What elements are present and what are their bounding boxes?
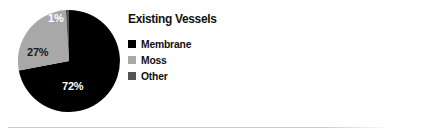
pie-label-membrane: 72% (62, 81, 83, 92)
pie-label-other: 1% (48, 13, 64, 24)
legend-swatch-membrane-icon (128, 40, 136, 48)
legend-item-membrane[interactable]: Membrane (128, 36, 214, 52)
legend-label-moss: Moss (141, 55, 167, 66)
legend-item-moss[interactable]: Moss (128, 52, 214, 68)
legend-existing-vessels: Existing Vessels Membrane Moss Other (128, 11, 214, 84)
legend-label-membrane: Membrane (141, 39, 191, 50)
legend-label-other: Other (141, 71, 168, 82)
chart-panel-existing-vessels: 72% 27% 1% Existing Vessels Membrane Mos… (0, 0, 218, 134)
legend-list-existing-vessels: Membrane Moss Other (128, 36, 214, 84)
pie-label-moss: 27% (27, 47, 48, 58)
chart-title-existing-vessels: Existing Vessels (128, 11, 207, 26)
pie-svg-existing-vessels (18, 10, 120, 112)
legend-item-other[interactable]: Other (128, 68, 214, 84)
legend-swatch-other-icon (128, 72, 136, 80)
legend-swatch-moss-icon (128, 56, 136, 64)
pie-chart-figure: 72% 27% 1% Existing Vessels Membrane Mos… (0, 0, 435, 134)
bottom-rule (8, 127, 390, 128)
pie-chart-existing-vessels: 72% 27% 1% (18, 10, 120, 112)
chart-panel-on-order: 86% 12% 2% On Order Membrane Moss Other (218, 0, 435, 134)
